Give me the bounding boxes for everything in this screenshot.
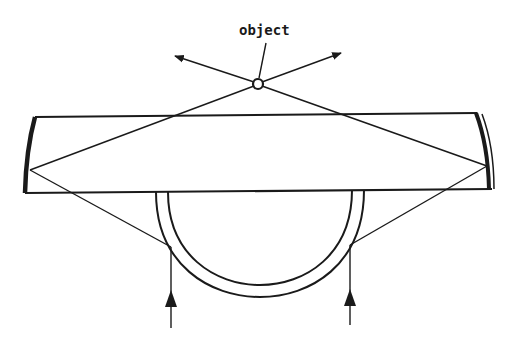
slab bbox=[25, 113, 492, 193]
ray-left-mirror-to-object bbox=[30, 86, 254, 170]
ray-right-mirror-to-object bbox=[262, 86, 487, 166]
left-mirror bbox=[25, 117, 35, 193]
slab-bottom-edge bbox=[25, 189, 492, 193]
arrow-up-icon bbox=[344, 289, 356, 306]
slab-top-edge bbox=[35, 113, 477, 117]
object-leader-line bbox=[259, 43, 266, 78]
dome-inner-arc bbox=[168, 190, 352, 285]
optical-diagram: object bbox=[0, 0, 517, 344]
input-arrowheads bbox=[165, 289, 356, 307]
right-mirror bbox=[476, 113, 494, 189]
output-ray-right bbox=[262, 53, 341, 82]
object-label: object bbox=[239, 22, 290, 38]
arrow-up-icon bbox=[165, 290, 177, 307]
dome-outer-arc bbox=[156, 190, 364, 297]
output-ray-left bbox=[175, 56, 254, 82]
dome-shell bbox=[156, 190, 364, 297]
object-point bbox=[253, 79, 263, 89]
ray-dome-to-left-mirror bbox=[30, 170, 171, 247]
ray-dome-to-right-mirror bbox=[350, 166, 487, 245]
